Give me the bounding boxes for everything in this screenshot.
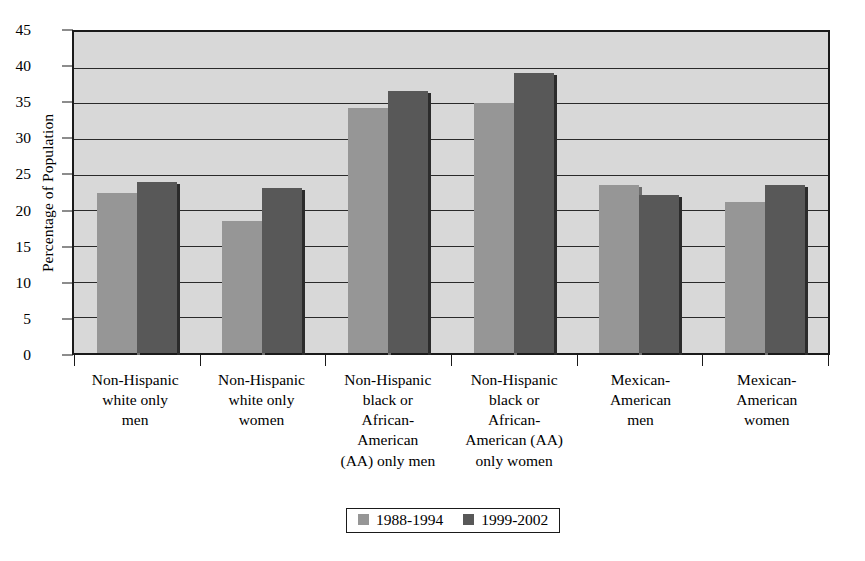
x-tick-mark [74,355,75,366]
bars-layer [74,32,828,353]
legend: 1988-19941999-2002 [346,508,560,533]
x-tick-mark [325,355,326,366]
y-tick-label: 25 [0,167,31,183]
bar [137,182,177,353]
bar [514,73,554,353]
y-tick-label: 10 [0,275,31,291]
legend-label: 1988-1994 [376,512,443,528]
bar-group [702,32,828,353]
legend-item: 1999-2002 [463,512,548,528]
y-tick-label: 40 [0,58,31,74]
x-tick-mark [451,355,452,366]
bar-group [200,32,326,353]
bar [222,221,262,353]
y-tick-label: 0 [0,347,31,363]
y-tick-label: 5 [0,311,31,327]
y-tick-label: 20 [0,203,31,219]
bar [639,195,679,353]
bar [765,185,805,353]
x-axis-label: Non-Hispanic black or African- American … [325,370,451,471]
x-axis-label: Non-Hispanic black or African- American … [451,370,577,471]
legend-swatch [463,514,474,525]
y-tick-label: 15 [0,239,31,255]
bar [348,108,388,353]
bar-chart: Percentage of Population 051015202530354… [0,0,865,561]
bar-group [74,32,200,353]
bar-group [577,32,703,353]
bar [725,202,765,353]
x-axis-label: Non-Hispanic white only women [198,370,324,471]
bar [388,91,428,353]
bar [97,193,137,354]
x-axis-labels: Non-Hispanic white only menNon-Hispanic … [72,370,830,471]
bar [599,185,639,353]
x-tick-mark [577,355,578,366]
y-tick-label: 30 [0,131,31,147]
legend-item: 1988-1994 [358,512,443,528]
legend-swatch [358,514,369,525]
bar [474,103,514,353]
y-tick-label: 35 [0,94,31,110]
x-axis-label: Non-Hispanic white only men [72,370,198,471]
bar-group [325,32,451,353]
bar [262,188,302,353]
x-tick-mark [828,355,829,366]
y-tick-label: 45 [0,22,31,38]
bar-group [451,32,577,353]
x-axis-label: Mexican- American women [704,370,830,471]
legend-label: 1999-2002 [481,512,548,528]
y-axis-title: Percentage of Population [39,73,57,313]
x-tick-mark [200,355,201,366]
x-tick-mark [702,355,703,366]
x-axis-label: Mexican- American men [577,370,703,471]
